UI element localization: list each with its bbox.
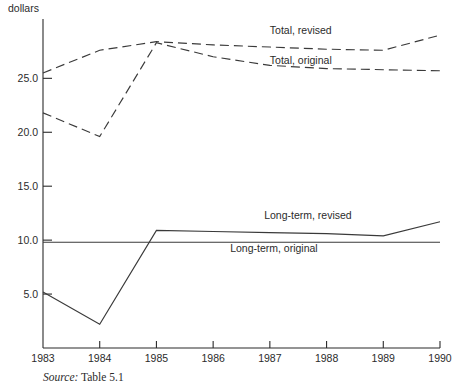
series-line <box>43 35 440 73</box>
x-tick-label: 1988 <box>315 352 339 364</box>
series-label: Long-term, original <box>230 242 318 254</box>
y-tick-label: 20.0 <box>18 126 39 138</box>
y-tick-group: 5.010.015.020.025.0 <box>18 72 52 300</box>
series-label: Total, original <box>270 54 332 66</box>
y-tick-label: 15.0 <box>18 180 39 192</box>
source-note-text: Table 5.1 <box>81 371 124 383</box>
x-tick-label: 1987 <box>258 352 282 364</box>
source-note: Source: Table 5.1 <box>43 371 124 383</box>
x-tick-label: 1986 <box>201 352 225 364</box>
x-tick-label: 1983 <box>31 352 55 364</box>
y-tick-label: 25.0 <box>18 72 39 84</box>
series-label: Long-term, revised <box>264 209 352 221</box>
x-tick-label: 1989 <box>372 352 396 364</box>
series-label-group: Total, revisedTotal, originalLong-term, … <box>230 24 352 254</box>
x-tick-label: 1990 <box>428 352 452 364</box>
series-label: Total, revised <box>270 24 332 36</box>
source-note-prefix: Source: <box>43 371 78 383</box>
y-axis: 5.010.015.020.025.0 <box>18 19 52 348</box>
x-tick-label: 1984 <box>88 352 112 364</box>
line-chart: dollars 5.010.015.020.025.0 198319841985… <box>0 0 452 390</box>
x-axis: 19831984198519861987198819891990 <box>31 341 452 364</box>
y-axis-title: dollars <box>8 2 39 14</box>
series-line <box>43 222 440 324</box>
figure-container: dollars 5.010.015.020.025.0 198319841985… <box>0 0 452 390</box>
series-group <box>43 35 440 324</box>
x-tick-group: 19831984198519861987198819891990 <box>31 341 452 364</box>
x-tick-label: 1985 <box>145 352 169 364</box>
series-line <box>43 43 440 137</box>
y-tick-label: 10.0 <box>18 234 39 246</box>
y-tick-label: 5.0 <box>23 288 38 300</box>
